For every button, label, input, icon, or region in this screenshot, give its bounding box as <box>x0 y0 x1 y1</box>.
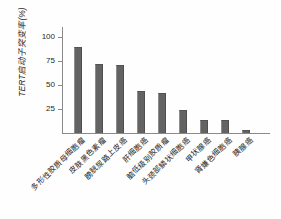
y-tick-label: 100 <box>42 32 55 41</box>
bar-chart-figure: TERT启动子突变率(%) 255075100 多形性胶质母细胞瘤皮肤黑色素瘤膀… <box>0 0 281 219</box>
x-tick-label: 甲状腺癌 <box>184 136 212 164</box>
bar <box>200 120 208 133</box>
y-axis-label: TERT启动子突变率(%) <box>15 0 27 107</box>
bar <box>137 91 145 133</box>
bar-series <box>62 27 270 133</box>
y-tick-label: 50 <box>46 80 55 89</box>
y-tick-label: 25 <box>46 104 55 113</box>
bar <box>242 130 250 133</box>
x-tick-label: 肾嫌色细胞癌 <box>194 136 233 175</box>
x-tick-label: 膀胱尿路上皮癌 <box>83 136 128 181</box>
x-axis-line <box>62 133 270 134</box>
y-tick-label: 75 <box>46 56 55 65</box>
x-tick-label: 多形性胶质母细胞瘤 <box>30 136 86 192</box>
x-tick-label: 头颈部鳞状细胞癌 <box>141 136 192 187</box>
x-tick-label: 脑低级别胶质瘤 <box>125 136 170 181</box>
x-tick-label: 肝细胞癌 <box>121 136 149 164</box>
bar <box>74 47 82 133</box>
bar <box>158 93 166 133</box>
x-tick-label: 胰腺癌 <box>232 136 254 158</box>
bar <box>221 120 229 133</box>
x-tick-label: 皮肤黑色素瘤 <box>68 136 107 175</box>
bar <box>116 65 124 133</box>
bar <box>95 64 103 133</box>
bar <box>179 110 187 133</box>
